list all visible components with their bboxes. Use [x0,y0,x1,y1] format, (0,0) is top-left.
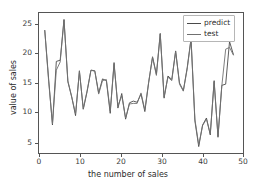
y-tick-label-25: 25 [14,20,32,28]
legend-entry-predict: predict [187,19,230,27]
y-tick-label-5: 5 [14,139,32,147]
legend: predict test [183,15,235,42]
figure-canvas: value of sales 5 10 15 20 25 0 10 20 30 … [0,0,256,188]
legend-entry-test: test [187,30,230,38]
y-tick-label-20: 20 [14,49,32,57]
x-tick-label-0: 0 [37,158,42,166]
y-tick-label-15: 15 [14,79,32,87]
legend-label-test: test [204,30,218,38]
y-tick-label-10: 10 [14,108,32,116]
x-tick-label-50: 50 [238,158,248,166]
x-tick-label-40: 40 [198,158,208,166]
legend-swatch-predict [187,23,201,24]
x-tick-label-30: 30 [157,158,167,166]
x-tick-label-10: 10 [75,158,85,166]
x-tick-label-20: 20 [116,158,126,166]
x-axis-label: the number of sales [0,170,256,179]
legend-swatch-test [187,34,201,35]
legend-label-predict: predict [204,19,230,27]
